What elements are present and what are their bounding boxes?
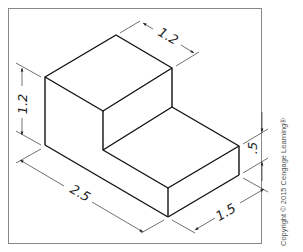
- dim-label-step-height: .5: [245, 142, 260, 154]
- tall-block-top-face: [45, 35, 172, 111]
- copyright-notice: Copyright © 2015 Cengage Learning®: [279, 118, 288, 246]
- dim-top-depth: [120, 21, 199, 66]
- edge-bottom-left: [45, 145, 168, 217]
- dim-label-total-length: 2.5: [68, 181, 93, 204]
- lower-block-top-face: [103, 107, 239, 188]
- dim-label-depth: 1.5: [213, 200, 238, 223]
- dim-label-tall-height: 1.2: [15, 94, 30, 115]
- isometric-drawing: 1.2 1.2 2.5 .5 1.5 Copyright © 2015 Ceng…: [0, 0, 303, 252]
- dim-label-top-depth: 1.2: [156, 24, 181, 47]
